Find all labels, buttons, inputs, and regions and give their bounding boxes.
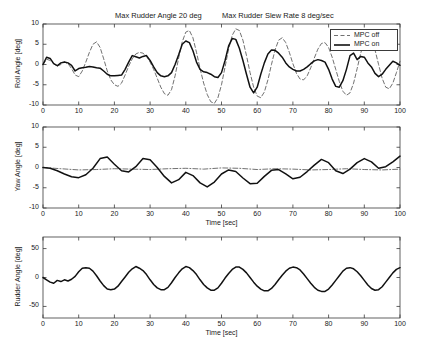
- figure-canvas: Max Rudder Angle 20 deg Max Rudder Slew …: [0, 0, 424, 345]
- y-axis-label: Rudder Angle [deg]: [14, 246, 21, 306]
- x-tick-label: 70: [283, 320, 303, 327]
- axes-frame: [43, 237, 400, 318]
- x-tick-label: 0: [33, 320, 53, 327]
- x-tick-label: 50: [212, 320, 232, 327]
- x-tick-label: 20: [104, 320, 124, 327]
- x-tick-label: 80: [319, 320, 339, 327]
- x-axis-label: Time [sec]: [182, 329, 262, 336]
- x-tick-label: 60: [247, 320, 267, 327]
- x-tick-label: 30: [140, 320, 160, 327]
- subplot-rudder-angle: 0102030405060708090100-50050Rudder Angle…: [0, 0, 424, 345]
- x-tick-label: 90: [354, 320, 374, 327]
- series-line-rudder: [43, 267, 400, 292]
- x-tick-label: 10: [69, 320, 89, 327]
- x-tick-label: 40: [176, 320, 196, 327]
- axes-rudder-angle: [0, 0, 424, 345]
- x-tick-label: 100: [390, 320, 410, 327]
